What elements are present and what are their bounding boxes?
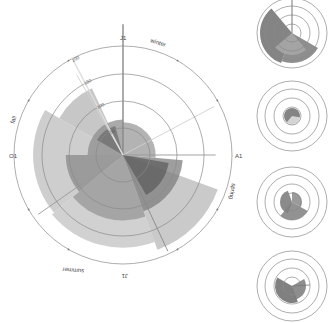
season-label-fall: fall — [9, 115, 17, 124]
mini-sector — [292, 279, 306, 300]
season-label-spring: spring — [228, 183, 237, 200]
season-label-winter: winter — [149, 37, 167, 48]
main-radial-chart: 200 150 100 50 J1 A1 O1 J1 winter spring… — [9, 24, 243, 279]
ring-tick-dot — [68, 248, 70, 250]
tick-label-200: 200 — [71, 55, 80, 63]
month-label-bottom: J1 — [121, 273, 128, 279]
ring-tick-dot — [177, 248, 179, 250]
mini-chart-4 — [257, 251, 327, 321]
mini-chart-1 — [257, 0, 327, 68]
ring-tick-dot — [68, 60, 70, 62]
mini-chart-3 — [257, 167, 327, 237]
small-multiples — [257, 0, 327, 321]
polar-chart-canvas: 200 150 100 50 J1 A1 O1 J1 winter spring… — [0, 0, 329, 323]
tick-label-150: 150 — [83, 78, 92, 86]
mini-chart-2 — [257, 81, 327, 151]
ring-tick-dot — [216, 100, 218, 102]
ring-tick-dot — [28, 209, 30, 211]
month-label-left: O1 — [9, 153, 18, 159]
month-label-top: J1 — [120, 35, 127, 41]
month-label-right: A1 — [235, 153, 243, 159]
season-label-summer: summer — [62, 266, 84, 274]
ring-tick-dot — [216, 209, 218, 211]
ring-tick-dot — [28, 100, 30, 102]
ring-tick-dot — [177, 60, 179, 62]
data-sectors — [33, 88, 218, 249]
